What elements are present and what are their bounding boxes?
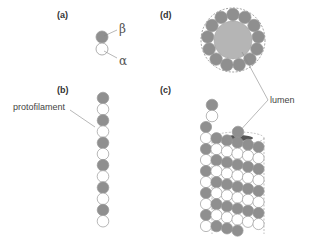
alpha-subunit (200, 132, 211, 143)
panel-label-c: (c) (160, 85, 171, 95)
beta-subunit (232, 137, 243, 148)
panel-label-a: (a) (57, 10, 68, 20)
tubulin-dimer: β α (96, 22, 127, 68)
beta-subunit (242, 183, 253, 194)
beta-subunit (211, 133, 222, 144)
alpha-subunit (97, 126, 109, 138)
protofilament-label: protofilament (13, 102, 66, 112)
alpha-subunit (232, 170, 243, 181)
alpha-subunit (221, 146, 232, 157)
beta-subunit (200, 121, 211, 132)
alpha-subunit (200, 176, 211, 187)
alpha-label: α (119, 54, 127, 68)
microtubule-diagram: (a) β α (b) protofilament (d) (c) lumen (0, 0, 311, 240)
alpha-subunit (253, 196, 264, 207)
alpha-subunit (221, 168, 232, 179)
alpha-subunit (206, 110, 218, 122)
beta-subunit (206, 99, 218, 111)
beta-subunit (232, 225, 243, 236)
alpha-subunit (200, 220, 211, 231)
lumen-label: lumen (270, 95, 295, 105)
beta-subunit (253, 207, 264, 218)
alpha-subunit (253, 218, 264, 229)
beta-subunit (221, 223, 232, 234)
beta-label: β (119, 22, 126, 36)
alpha-subunit (211, 144, 222, 155)
alpha-subunit (253, 152, 264, 163)
alpha-leader-line (104, 51, 117, 58)
microtubule-wall (200, 99, 264, 236)
alpha-subunit (97, 215, 109, 227)
alpha-subunit (232, 192, 243, 203)
alpha-subunit (232, 214, 243, 225)
beta-subunit (221, 135, 232, 146)
beta-subunit (211, 177, 222, 188)
alpha-tubulin (96, 43, 108, 55)
tubulin-subunit (203, 43, 215, 55)
beta-subunit (211, 155, 222, 166)
beta-subunit (97, 137, 109, 149)
beta-subunit (200, 143, 211, 154)
beta-subunit (232, 126, 244, 138)
beta-subunit (242, 161, 253, 172)
beta-subunit (200, 209, 211, 220)
beta-subunit (232, 203, 243, 214)
beta-tubulin (96, 31, 108, 43)
beta-subunit (253, 185, 264, 196)
beta-subunit (221, 157, 232, 168)
beta-subunit (97, 92, 109, 104)
beta-subunit (253, 141, 264, 152)
beta-subunit (97, 204, 109, 216)
beta-subunit (221, 201, 232, 212)
beta-subunit (232, 181, 243, 192)
beta-subunit (211, 221, 222, 232)
alpha-subunit (200, 198, 211, 209)
tubulin-subunit (221, 59, 233, 71)
alpha-subunit (200, 154, 211, 165)
protofilament-leader-line (70, 110, 95, 127)
panel-label-b: (b) (57, 85, 69, 95)
alpha-subunit (242, 216, 253, 227)
alpha-subunit (211, 210, 222, 221)
beta-subunit (242, 139, 253, 150)
alpha-subunit (97, 171, 109, 183)
beta-subunit (232, 159, 243, 170)
beta-subunit (221, 179, 232, 190)
alpha-subunit (97, 103, 109, 115)
panel-label-d: (d) (160, 10, 172, 20)
protofilament (97, 92, 109, 227)
beta-subunit (211, 199, 222, 210)
beta-subunit (200, 187, 211, 198)
alpha-subunit (211, 188, 222, 199)
microtubule-cross-section (201, 8, 265, 72)
beta-subunit (97, 159, 109, 171)
alpha-subunit (97, 193, 109, 205)
tubulin-subunit (248, 19, 260, 31)
tubulin-subunit (201, 31, 213, 43)
alpha-subunit (221, 190, 232, 201)
beta-subunit (200, 165, 211, 176)
alpha-subunit (253, 174, 264, 185)
alpha-subunit (97, 148, 109, 160)
tubulin-subunit (233, 59, 245, 71)
tubulin-subunit (215, 11, 227, 23)
beta-subunit (97, 115, 109, 127)
alpha-subunit (232, 148, 243, 159)
alpha-subunit (242, 172, 253, 183)
beta-subunit (253, 163, 264, 174)
beta-subunit (242, 205, 253, 216)
alpha-subunit (211, 166, 222, 177)
lumen-area (214, 21, 252, 59)
tubulin-subunit (252, 31, 264, 43)
alpha-subunit (242, 194, 253, 205)
tubulin-subunit (227, 8, 239, 20)
beta-subunit (97, 182, 109, 194)
alpha-subunit (242, 150, 253, 161)
alpha-subunit (221, 212, 232, 223)
